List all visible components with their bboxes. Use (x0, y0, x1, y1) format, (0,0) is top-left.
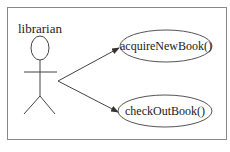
use-case-label: checkOutBook() (125, 104, 205, 118)
actor-label: librarian (18, 21, 63, 36)
use-case-diagram: librarian acquireNewBook() checkOutBook(… (0, 0, 230, 152)
use-case-check-out-book[interactable]: checkOutBook() (118, 95, 212, 127)
use-case-acquire-new-book[interactable]: acquireNewBook() (120, 30, 212, 62)
use-case-label: acquireNewBook() (120, 39, 212, 53)
